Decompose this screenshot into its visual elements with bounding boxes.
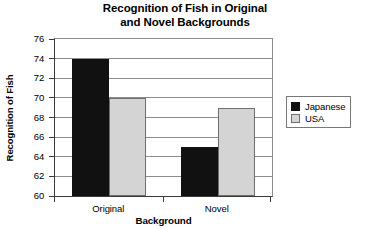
bar-japanese-novel bbox=[181, 147, 218, 196]
y-axis-tick bbox=[49, 176, 54, 177]
legend: JapaneseUSA bbox=[286, 96, 351, 128]
y-axis-tick-label: 76 bbox=[34, 33, 44, 44]
y-axis-tick bbox=[49, 58, 54, 59]
y-axis-tick bbox=[49, 39, 54, 40]
y-axis-tick bbox=[49, 117, 54, 118]
chart-title: Recognition of Fish in Original and Nove… bbox=[30, 2, 340, 29]
bar-usa-novel bbox=[218, 108, 255, 196]
legend-item-japanese[interactable]: Japanese bbox=[291, 100, 345, 112]
y-axis-tick bbox=[49, 156, 54, 157]
legend-item-usa[interactable]: USA bbox=[291, 112, 345, 124]
bar-japanese-original bbox=[72, 59, 109, 196]
x-axis-tick bbox=[54, 197, 55, 202]
y-axis-tick-label: 60 bbox=[34, 190, 44, 201]
legend-swatch-japanese-icon bbox=[291, 102, 300, 111]
y-axis-tick-label: 72 bbox=[34, 72, 44, 83]
legend-label: USA bbox=[305, 113, 324, 124]
y-axis-tick-label: 70 bbox=[34, 91, 44, 102]
x-axis-label: Background bbox=[54, 215, 273, 226]
y-axis-tick-label: 66 bbox=[34, 131, 44, 142]
x-axis-ticks bbox=[54, 197, 273, 203]
y-axis-tick-label: 68 bbox=[34, 111, 44, 122]
y-axis-tick bbox=[49, 97, 54, 98]
legend-label: Japanese bbox=[305, 101, 345, 112]
y-axis-label: Recognition of Fish bbox=[4, 74, 15, 161]
x-axis-category-label: Novel bbox=[205, 203, 229, 214]
y-axis-tick-label: 64 bbox=[34, 150, 44, 161]
y-axis-tick bbox=[49, 78, 54, 79]
chart-title-line-2: and Novel Backgrounds bbox=[30, 16, 340, 30]
x-axis-tick bbox=[163, 197, 164, 202]
x-axis-tick bbox=[270, 197, 271, 202]
chart-title-line-1: Recognition of Fish in Original bbox=[30, 2, 340, 16]
y-axis-tick-label: 62 bbox=[34, 170, 44, 181]
x-axis-category-label: Original bbox=[92, 203, 124, 214]
y-axis-tick bbox=[49, 137, 54, 138]
bar-usa-original bbox=[109, 98, 146, 196]
y-axis-label-container: Recognition of Fish bbox=[2, 38, 16, 197]
y-axis-tick-label: 74 bbox=[34, 52, 44, 63]
plot-area bbox=[54, 38, 273, 197]
legend-swatch-usa-icon bbox=[291, 114, 300, 123]
